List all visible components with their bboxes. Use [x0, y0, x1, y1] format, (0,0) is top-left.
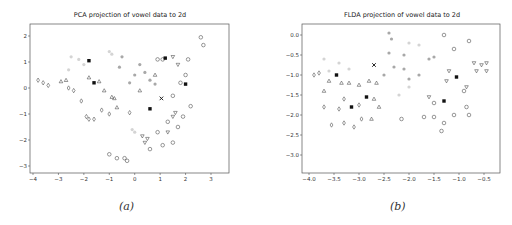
- x-tick-label: −1.5: [427, 176, 441, 182]
- data-point: [407, 77, 410, 80]
- x-tick-label: −3: [54, 176, 63, 182]
- y-tick-label: −1: [19, 111, 27, 117]
- data-point: [417, 43, 420, 46]
- caption-b: (b): [390, 200, 406, 213]
- x-tick-label: −1.0: [452, 176, 466, 182]
- data-point: [427, 57, 430, 60]
- data-point: [153, 83, 156, 86]
- data-point: [417, 73, 420, 76]
- x-tick-label: −2: [80, 176, 88, 182]
- x-tick-label: 1: [158, 176, 162, 182]
- data-point: [432, 55, 435, 58]
- caption-a: (a): [119, 200, 134, 213]
- data-point: [365, 95, 368, 98]
- data-point: [70, 55, 73, 58]
- data-point: [402, 67, 405, 70]
- scatter-plot-flda: −4.0−3.5−3.0−2.5−2.0−1.5−1.0−0.50.0−0.5−…: [256, 0, 512, 225]
- y-tick-label: −1.0: [286, 72, 300, 78]
- x-tick-label: −2.0: [402, 176, 416, 182]
- data-point: [77, 58, 80, 61]
- data-point: [455, 75, 458, 78]
- data-point: [164, 56, 167, 59]
- data-point: [442, 99, 445, 102]
- data-point: [110, 53, 113, 56]
- data-point: [407, 41, 410, 44]
- data-point: [138, 63, 141, 66]
- data-point: [67, 68, 70, 71]
- data-point: [392, 65, 395, 68]
- data-point: [390, 37, 393, 40]
- x-tick-label: −0.5: [477, 176, 491, 182]
- y-tick-label: −0.5: [286, 52, 300, 58]
- data-point: [402, 53, 405, 56]
- y-tick-label: −2.5: [286, 132, 300, 138]
- y-tick-label: −1.5: [286, 92, 300, 98]
- y-tick-label: 0.0: [290, 32, 299, 38]
- plot-area: [302, 24, 500, 173]
- x-tick-label: −3.5: [327, 176, 341, 182]
- data-point: [397, 93, 400, 96]
- x-tick-label: 0: [133, 176, 137, 182]
- x-tick-label: 3: [209, 176, 213, 182]
- panel-flda: FLDA projection of vowel data to 2d −4.0…: [256, 0, 512, 225]
- data-point: [327, 69, 330, 72]
- data-point: [148, 79, 151, 82]
- data-point: [108, 50, 111, 53]
- data-point: [387, 51, 390, 54]
- y-tick-label: 0: [24, 85, 28, 91]
- y-tick-label: −3.0: [286, 152, 300, 158]
- data-point: [148, 107, 151, 110]
- data-point: [350, 105, 353, 108]
- data-point: [382, 73, 385, 76]
- y-tick-label: −3: [19, 163, 28, 169]
- x-tick-label: −3.0: [352, 176, 366, 182]
- data-point: [133, 131, 136, 134]
- data-point: [143, 71, 146, 74]
- y-tick-label: 2: [24, 33, 28, 39]
- data-point: [337, 61, 340, 64]
- data-point: [387, 31, 390, 34]
- x-tick-label: −4.0: [302, 176, 316, 182]
- x-tick-label: −2.5: [377, 176, 391, 182]
- data-point: [322, 57, 325, 60]
- data-point: [120, 55, 123, 58]
- y-tick-label: −2.0: [286, 112, 300, 118]
- data-point: [131, 128, 134, 131]
- scatter-plot-pca: −4−3−2−10123210−1−2−3: [0, 0, 256, 225]
- x-tick-label: 2: [184, 176, 188, 182]
- data-point: [128, 81, 131, 84]
- data-point: [335, 73, 338, 76]
- y-tick-label: 1: [24, 59, 28, 65]
- y-tick-label: −2: [19, 137, 27, 143]
- data-point: [133, 73, 136, 76]
- panel-pca: PCA projection of vowel data to 2d −4−3−…: [0, 0, 256, 225]
- data-point: [87, 59, 90, 62]
- data-point: [92, 81, 95, 84]
- data-point: [118, 66, 121, 69]
- x-tick-label: −1: [105, 176, 113, 182]
- data-point: [407, 85, 410, 88]
- data-point: [184, 82, 187, 85]
- data-point: [82, 63, 85, 66]
- data-point: [347, 67, 350, 70]
- plot-area: [30, 24, 229, 173]
- x-tick-label: −4: [29, 176, 38, 182]
